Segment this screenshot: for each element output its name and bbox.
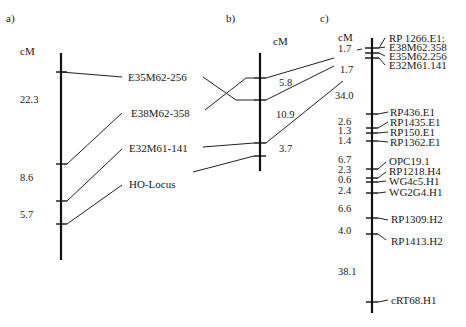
interval-c-1: 1.7	[338, 43, 351, 54]
connector-b-e32	[203, 143, 254, 147]
linkage-map-figure: a) cM 22.3 8.6 5.7 E35M62-256 E38M62-358…	[0, 0, 466, 327]
panel-a-label: a)	[6, 12, 15, 25]
panel-b-label: b)	[226, 12, 236, 25]
panel-a-unit: cM	[20, 45, 35, 57]
interval-a-3: 5.7	[20, 209, 33, 220]
panel-c-unit: cM	[338, 31, 353, 43]
marker-e32m61-141-c: E32M61.141	[389, 59, 447, 71]
leader-c-14	[378, 234, 386, 240]
interval-c-12: 4.0	[338, 225, 351, 236]
connector-bc-stub	[357, 49, 362, 50]
panel-c-label: c)	[320, 12, 329, 25]
leader-c-6	[378, 122, 388, 128]
leader-c-12	[378, 192, 386, 193]
leader-c-10	[378, 172, 386, 178]
leader-c-13	[378, 218, 388, 220]
marker-ho-locus: HO-Locus	[129, 178, 175, 190]
interval-b-1: 5.8	[279, 77, 292, 88]
connector-b-e38	[205, 78, 254, 110]
interval-c-3: 34.0	[335, 90, 353, 101]
interval-c-13: 38.1	[338, 266, 356, 277]
marker-e35m62-256: E35M62-256	[128, 71, 187, 83]
interval-b-3: 3.7	[279, 143, 292, 154]
connector-bc-1	[266, 58, 334, 78]
marker-crt68: cRT68.H1	[391, 294, 436, 306]
leader-c-15	[378, 300, 388, 302]
connector-a-ho	[67, 185, 122, 224]
connector-a-e35	[61, 72, 122, 77]
connector-b-ho	[193, 156, 254, 172]
interval-b-2: 10.9	[276, 109, 294, 120]
leader-c-5	[378, 112, 388, 114]
leader-c-1	[379, 38, 385, 48]
interval-c-2: 1.7	[340, 64, 353, 75]
leader-c-9	[378, 162, 386, 169]
leader-c-4	[379, 58, 385, 65]
marker-rp1362: RP1362.E1	[390, 136, 440, 148]
leader-c-11	[378, 181, 386, 182]
marker-e32m61-141: E32M61-141	[129, 142, 188, 154]
interval-a-2: 8.6	[20, 172, 33, 183]
connector-b-e35	[203, 77, 254, 100]
leader-c-7	[378, 132, 388, 133]
panel-b-unit: cM	[273, 35, 288, 47]
connector-bc-2	[266, 66, 334, 100]
marker-e38m62-358: E38M62-358	[131, 107, 190, 119]
interval-c-10: 2.4	[338, 185, 352, 196]
marker-rp1413: RP1413.H2	[391, 235, 443, 247]
marker-wg2g4: WG2G4.H1	[389, 186, 442, 198]
leader-c-3	[379, 53, 385, 56]
marker-rp1309: RP1309.H2	[391, 213, 443, 225]
interval-a-1: 22.3	[20, 94, 38, 105]
interval-c-9: 0.6	[338, 174, 351, 185]
interval-c-11: 6.6	[338, 203, 351, 214]
leader-c-8	[378, 141, 388, 142]
interval-c-6: 1.4	[338, 135, 352, 146]
